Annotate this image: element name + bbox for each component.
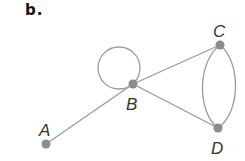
- node-b: [129, 80, 138, 89]
- node-label-a: A: [38, 121, 50, 140]
- node-label-b: B: [126, 95, 137, 114]
- node-label-c: C: [213, 22, 226, 41]
- edge-c-d-left: [202, 45, 220, 128]
- node-c: [216, 41, 225, 50]
- node-label-d: D: [211, 139, 223, 158]
- edge-a-b: [46, 84, 133, 144]
- node-a: [42, 140, 51, 149]
- graph-diagram: A B C D: [0, 0, 245, 161]
- node-d: [214, 124, 223, 133]
- edge-c-d-right: [218, 45, 236, 128]
